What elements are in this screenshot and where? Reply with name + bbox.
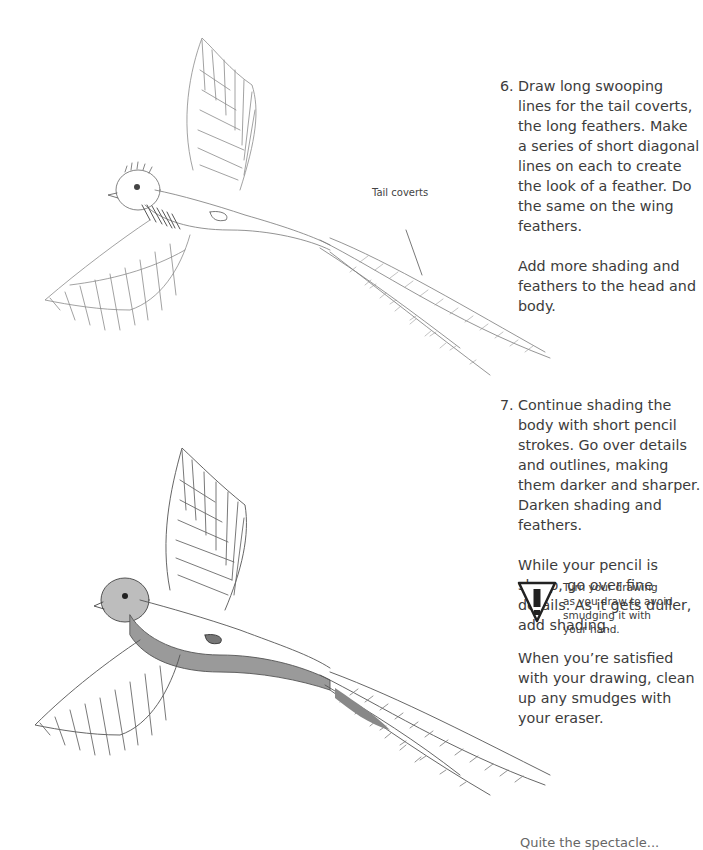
tip-callout: Turn your drawing as you draw to avoid s… xyxy=(517,580,673,636)
tail-coverts-callout: Tail coverts xyxy=(372,187,428,198)
cut-off-text: Quite the spectacle... xyxy=(520,835,659,850)
step-paragraph: When you’re satisfied with your drawing,… xyxy=(518,648,703,728)
step-paragraph: Add more shading and feathers to the hea… xyxy=(518,256,700,316)
quetzal-sketch-step-7 xyxy=(30,440,560,800)
step-paragraph: Continue shading the body with short pen… xyxy=(518,395,703,535)
step-6: 6. Draw long swooping lines for the tail… xyxy=(500,76,700,336)
step-number: 7. xyxy=(500,395,514,415)
quetzal-sketch-step-6 xyxy=(30,30,560,390)
step-7-final: When you’re satisfied with your drawing,… xyxy=(518,648,703,748)
step-number: 6. xyxy=(500,76,514,96)
step-paragraph: Draw long swooping lines for the tail co… xyxy=(518,76,700,236)
tip-text: Turn your drawing as you draw to avoid s… xyxy=(563,580,673,636)
warning-icon xyxy=(517,580,557,624)
